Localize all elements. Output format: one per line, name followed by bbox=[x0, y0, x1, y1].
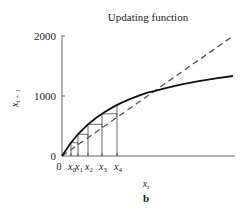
updating-function-chart: Updating function 010002000 0x0x1x2x3x4 … bbox=[0, 0, 244, 217]
identity-line-dashed bbox=[62, 36, 233, 156]
x-tick-label: x4 bbox=[113, 161, 122, 174]
x-tick-label: x3 bbox=[98, 161, 107, 174]
y-tick-label: 2000 bbox=[34, 30, 57, 42]
y-ticks: 010002000 bbox=[34, 30, 65, 162]
cobweb-steps bbox=[71, 105, 117, 156]
x-tick-label: x2 bbox=[84, 161, 93, 174]
x-axis-label: xt bbox=[142, 178, 150, 191]
y-axis-label: xt + 1 bbox=[9, 89, 22, 108]
chart-title: Updating function bbox=[108, 11, 189, 23]
y-tick-label: 1000 bbox=[34, 90, 57, 102]
panel-label: b bbox=[143, 192, 149, 204]
x-tick-label: 0 bbox=[57, 161, 62, 172]
